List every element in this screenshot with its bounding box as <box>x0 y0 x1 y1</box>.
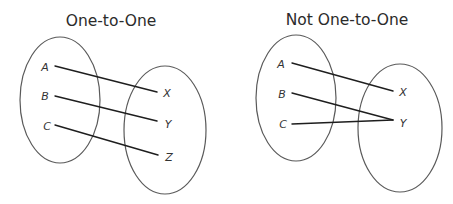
one-to-one-diagram: One-to-One A B C X Y Z <box>20 12 206 194</box>
mapping-arrow-a-to-x <box>292 63 393 91</box>
domain-set-ellipse <box>256 35 336 161</box>
domain-element-c: C <box>43 120 51 133</box>
domain-set-ellipse <box>20 37 100 163</box>
mapping-arrow-b-to-y <box>55 96 157 121</box>
not-one-to-one-diagram: Not One-to-One A B C X Y <box>256 11 442 192</box>
mapping-arrow-c-to-z <box>55 125 158 155</box>
domain-element-a: A <box>276 58 285 71</box>
codomain-element-y: Y <box>400 117 408 130</box>
codomain-element-z: Z <box>164 151 173 164</box>
codomain-element-x: X <box>398 86 407 99</box>
domain-element-c: C <box>279 118 287 131</box>
function-mapping-figure: One-to-One A B C X Y Z Not One-to-One A … <box>0 0 453 204</box>
mapping-arrow-c-to-y <box>292 120 393 124</box>
codomain-element-y: Y <box>165 118 173 131</box>
domain-element-a: A <box>40 61 49 74</box>
domain-element-b: B <box>41 90 49 103</box>
mapping-arrow-a-to-x <box>55 66 157 92</box>
domain-element-b: B <box>278 88 286 101</box>
diagram-title-one-to-one: One-to-One <box>66 12 157 30</box>
mapping-arrow-b-to-y <box>292 93 393 120</box>
diagram-title-not-one-to-one: Not One-to-One <box>286 11 409 29</box>
codomain-element-x: X <box>162 87 171 100</box>
